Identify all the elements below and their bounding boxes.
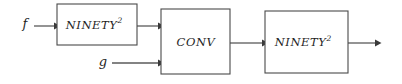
svg-text:CONV: CONV bbox=[177, 35, 217, 49]
edge-g-to-conv bbox=[112, 60, 165, 67]
block-1-label: NINETY bbox=[65, 18, 119, 32]
block-2-label: CONV bbox=[177, 35, 217, 49]
block-ninety-squared-2[interactable]: NINETY2 bbox=[265, 11, 348, 73]
edge-ninety1-to-conv bbox=[137, 23, 165, 30]
block-diagram: NINETY2 CONV NINETY2 f g bbox=[0, 0, 402, 84]
block-3-superscript: 2 bbox=[326, 33, 332, 42]
block-3-label: NINETY bbox=[274, 35, 328, 49]
block-ninety-squared-1[interactable]: NINETY2 bbox=[57, 4, 137, 45]
edge-ninety2-to-output bbox=[348, 40, 382, 47]
block-1-superscript: 2 bbox=[117, 16, 123, 25]
input-label-f: f bbox=[22, 16, 30, 31]
block-conv[interactable]: CONV bbox=[161, 9, 230, 74]
diagram-canvas: NINETY2 CONV NINETY2 f g bbox=[0, 0, 402, 84]
svg-text:NINETY2: NINETY2 bbox=[65, 16, 123, 32]
edge-conv-to-ninety2 bbox=[230, 40, 269, 47]
svg-text:NINETY2: NINETY2 bbox=[274, 33, 332, 49]
input-label-g: g bbox=[99, 54, 107, 69]
